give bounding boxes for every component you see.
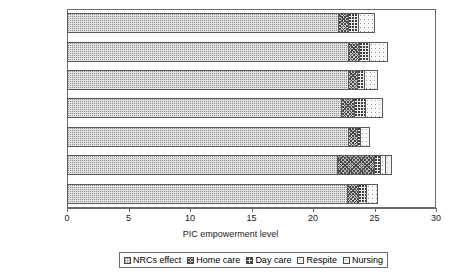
x-tick — [190, 208, 191, 212]
bar-segment-day-care[interactable] — [358, 71, 365, 89]
legend-item-nursing[interactable]: Nursing — [343, 255, 383, 265]
table-row[interactable] — [67, 70, 378, 90]
bar-segment-day-care[interactable] — [360, 43, 370, 61]
chart-row: Sev cog imp — [67, 9, 436, 37]
bar-segment-home-care[interactable] — [349, 71, 358, 89]
bar-segment-nrcs-effect[interactable] — [68, 99, 342, 117]
table-row[interactable] — [67, 98, 383, 118]
legend-swatch-icon — [343, 257, 350, 264]
legend-label: Respite — [306, 255, 337, 265]
bar-segment-home-care[interactable] — [339, 14, 349, 32]
x-axis-title: PIC empowerment level — [0, 229, 461, 239]
chart-row: Critical — [67, 94, 436, 122]
table-row[interactable] — [67, 13, 375, 33]
legend-label: NRCs effect — [133, 255, 181, 265]
bar-segment-nrcs-effect[interactable] — [68, 128, 349, 146]
x-tick-label: 20 — [308, 213, 318, 223]
bar-segment-nrcs-effect[interactable] — [68, 14, 339, 32]
bar-segment-home-care[interactable] — [349, 128, 358, 146]
bar-segment-nursing[interactable] — [386, 156, 391, 174]
x-tick — [129, 208, 130, 212]
x-tick — [313, 208, 314, 212]
x-tick — [67, 208, 68, 212]
chart-row: Short — [67, 123, 436, 151]
bar-segment-nrcs-effect[interactable] — [68, 43, 349, 61]
bar-segment-day-care[interactable] — [355, 99, 366, 117]
bar-segment-home-care[interactable] — [342, 99, 355, 117]
bar-segment-respite[interactable] — [366, 99, 382, 117]
x-tick — [436, 208, 437, 212]
stacked-bar-chart: Sev cog impMild cog impNo cog impCritica… — [0, 0, 461, 277]
legend-swatch-icon — [187, 257, 194, 264]
chart-row: Mild cog imp — [67, 37, 436, 65]
bar-segment-day-care[interactable] — [359, 185, 368, 203]
table-row[interactable] — [67, 155, 392, 175]
bar-segment-home-care[interactable] — [348, 185, 359, 203]
chart-row: Long — [67, 151, 436, 179]
bar-rows-container: Sev cog impMild cog impNo cog impCritica… — [67, 9, 436, 208]
x-tick-label: 15 — [246, 213, 256, 223]
x-tick — [252, 208, 253, 212]
chart-row: No cog imp — [67, 66, 436, 94]
x-tick — [375, 208, 376, 212]
bar-segment-respite[interactable] — [365, 71, 377, 89]
legend-swatch-icon — [246, 257, 253, 264]
legend-item-respite[interactable]: Respite — [297, 255, 337, 265]
table-row[interactable] — [67, 42, 388, 62]
x-tick-label: 0 — [64, 213, 69, 223]
legend-swatch-icon — [124, 257, 131, 264]
legend-swatch-icon — [297, 257, 304, 264]
legend-item-home-care[interactable]: Home care — [187, 255, 240, 265]
bar-segment-nrcs-effect[interactable] — [68, 156, 338, 174]
bar-segment-respite[interactable] — [361, 128, 368, 146]
table-row[interactable] — [67, 127, 370, 147]
bar-segment-respite[interactable] — [370, 43, 387, 61]
bar-segment-respite[interactable] — [367, 185, 377, 203]
legend-label: Day care — [255, 255, 291, 265]
legend-item-day-care[interactable]: Day care — [246, 255, 291, 265]
bar-segment-nrcs-effect[interactable] — [68, 185, 348, 203]
table-row[interactable] — [67, 184, 378, 204]
bar-segment-respite[interactable] — [359, 14, 374, 32]
legend-item-nrcs-effect[interactable]: NRCs effect — [124, 255, 181, 265]
x-tick-label: 25 — [369, 213, 379, 223]
bar-segment-day-care[interactable] — [349, 14, 359, 32]
chart-row: Overall — [67, 180, 436, 208]
legend-label: Nursing — [352, 255, 383, 265]
bar-segment-home-care[interactable] — [349, 43, 360, 61]
bar-segment-home-care[interactable] — [338, 156, 375, 174]
x-tick-label: 5 — [126, 213, 131, 223]
chart-legend: NRCs effectHome careDay careRespiteNursi… — [119, 252, 388, 268]
x-tick-label: 30 — [431, 213, 441, 223]
bar-segment-nrcs-effect[interactable] — [68, 71, 349, 89]
x-tick-label: 10 — [185, 213, 195, 223]
legend-label: Home care — [196, 255, 240, 265]
